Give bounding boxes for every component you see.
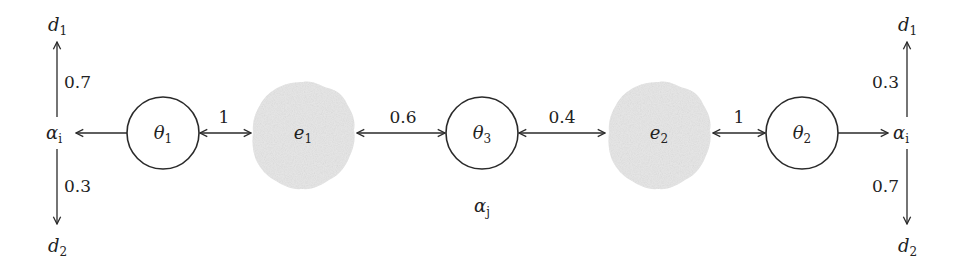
weight-alpha-right-d1: 0.3	[872, 72, 899, 92]
weight-alpha-left-d1: 0.7	[64, 72, 91, 92]
weight-e1-theta3: 0.6	[389, 107, 416, 127]
flow-diagram: 0.7 0.3 d1 d2 αi θ1 1 e1 0.6 θ3 αj	[0, 0, 964, 270]
weight-theta3-e2: 0.4	[548, 107, 575, 127]
label-d2-left: d2	[48, 235, 67, 259]
node-e2: e2	[608, 82, 710, 190]
label-d1-left: d1	[48, 14, 67, 38]
label-d1-right: d1	[898, 14, 917, 38]
node-theta1: θ1	[127, 97, 199, 169]
label-d2-right: d2	[898, 235, 917, 259]
node-theta3: θ3	[446, 97, 518, 169]
weight-e2-theta2: 1	[734, 107, 745, 127]
right-output-cluster: 0.3 0.7 d1 d2 αi	[872, 14, 917, 259]
left-output-cluster: 0.7 0.3 d1 d2 αi	[46, 14, 91, 259]
weight-theta1-e1: 1	[219, 107, 230, 127]
diagram-canvas: 0.7 0.3 d1 d2 αi θ1 1 e1 0.6 θ3 αj	[0, 0, 964, 270]
weight-alpha-left-d2: 0.3	[64, 176, 91, 196]
label-alpha-i-left: αi	[46, 122, 62, 146]
node-e1: e1	[252, 82, 354, 190]
node-theta2: θ2	[766, 97, 838, 169]
label-alpha-i-right: αi	[893, 122, 909, 146]
label-alpha-j: αj	[474, 195, 490, 219]
weight-alpha-right-d2: 0.7	[872, 176, 899, 196]
